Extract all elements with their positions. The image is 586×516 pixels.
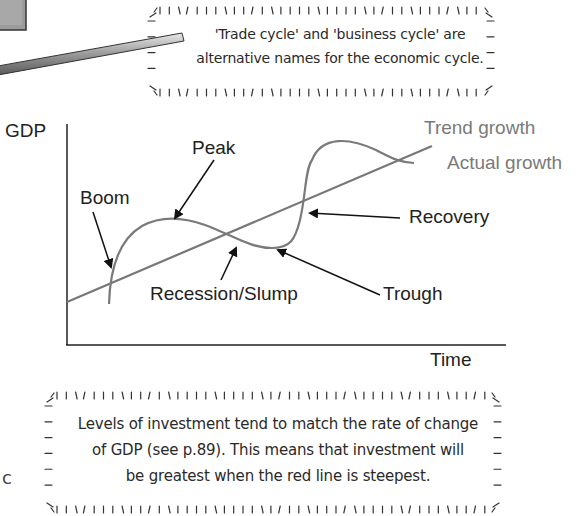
spiky-borders	[0, 0, 586, 516]
